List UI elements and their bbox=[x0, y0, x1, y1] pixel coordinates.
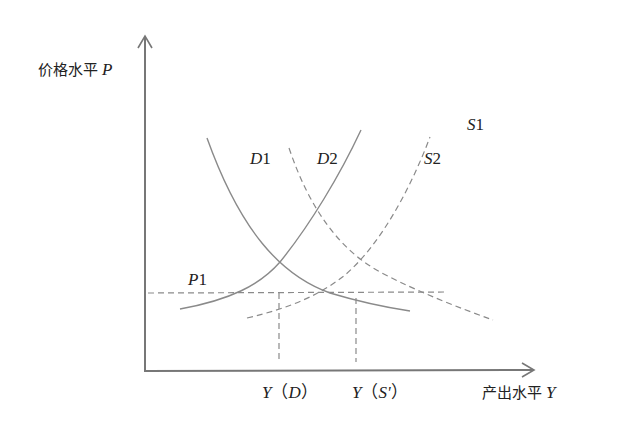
y-axis-label: 价格水平 P bbox=[38, 61, 112, 78]
y-d-open: （ bbox=[271, 383, 288, 402]
y-s-open: （ bbox=[361, 383, 378, 402]
y-axis bbox=[138, 36, 152, 372]
y-s-close: ） bbox=[391, 383, 408, 402]
x-axis-label-cn: 产出水平 bbox=[482, 384, 542, 402]
p1-label-num: 1 bbox=[198, 270, 207, 289]
x-axis-label: 产出水平 Y bbox=[482, 384, 555, 401]
p1-label: P1 bbox=[188, 271, 207, 288]
y-s-inner: S' bbox=[378, 383, 390, 402]
y-s-marker-label: Y（S'） bbox=[352, 384, 408, 401]
d1-label: D1 bbox=[250, 150, 271, 167]
d1-curve bbox=[207, 138, 410, 311]
x-axis-label-var: Y bbox=[546, 383, 555, 402]
d2-label-var: D bbox=[317, 149, 329, 168]
y-d-marker-label: Y（D） bbox=[262, 384, 318, 401]
d2-label-num: 2 bbox=[329, 149, 338, 168]
s1-label-num: 1 bbox=[476, 115, 485, 134]
x-axis bbox=[145, 363, 534, 377]
s2-label-num: 2 bbox=[433, 149, 442, 168]
s1-label: S1 bbox=[467, 116, 484, 133]
d2-curve bbox=[289, 148, 493, 320]
y-d-inner: D bbox=[288, 383, 300, 402]
s2-label: S2 bbox=[424, 150, 441, 167]
p1-price-line bbox=[148, 292, 447, 293]
s2-label-var: S bbox=[424, 149, 433, 168]
d1-label-var: D bbox=[250, 149, 262, 168]
s2-curve bbox=[247, 137, 430, 318]
y-axis-label-cn: 价格水平 bbox=[38, 61, 98, 79]
p1-label-var: P bbox=[188, 270, 198, 289]
s1-label-var: S bbox=[467, 115, 476, 134]
d1-label-num: 1 bbox=[262, 149, 271, 168]
y-axis-label-var: P bbox=[102, 60, 112, 79]
d2-label: D2 bbox=[317, 150, 338, 167]
y-d-close: ） bbox=[301, 383, 318, 402]
